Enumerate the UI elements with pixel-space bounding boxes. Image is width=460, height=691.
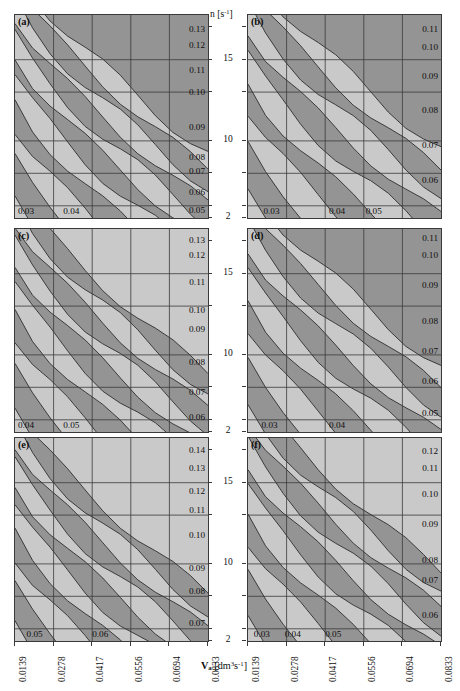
y-axis-label: 15 <box>213 53 243 63</box>
y-axis-tick <box>208 91 212 92</box>
y-axis-tick <box>208 59 212 60</box>
contour-label: 0.05 <box>366 206 382 216</box>
y-axis-tick <box>208 514 212 515</box>
x-axis-title-variable: Va <box>201 660 212 671</box>
contour-label: 0.05 <box>422 408 438 418</box>
panel-tag-e: (e) <box>18 439 29 450</box>
contour-bands-f <box>248 438 441 641</box>
panel-tag-f: (f) <box>251 439 261 450</box>
x-axis-tick <box>91 642 92 646</box>
contour-label: 0.13 <box>189 235 205 245</box>
contour-label: 0.08 <box>189 152 205 162</box>
y-axis-tick <box>208 595 212 596</box>
panel-tag-a: (a) <box>18 16 30 27</box>
contour-label: 0.05 <box>63 420 79 430</box>
x-axis-tick <box>53 642 54 646</box>
contour-label: 0.10 <box>422 42 438 52</box>
contour-label: 0.04 <box>285 629 301 639</box>
contour-bands-b <box>248 15 441 218</box>
y-axis-tick <box>242 91 246 92</box>
y-axis-tick <box>208 305 212 306</box>
x-axis-tick <box>324 642 325 646</box>
x-axis-tick <box>401 642 402 646</box>
contour-label: 0.11 <box>422 233 438 243</box>
contour-label: 0.07 <box>189 387 205 397</box>
contour-label: 0.03 <box>254 629 270 639</box>
x-axis-title-unit: [dm3s-1] <box>214 660 247 671</box>
contour-bands-a <box>15 15 208 218</box>
contour-label: 0.06 <box>422 610 438 620</box>
x-axis-tick <box>286 642 287 646</box>
contour-label: 0.08 <box>422 316 438 326</box>
contour-label: 0.10 <box>422 250 438 260</box>
y-axis-tick <box>242 205 246 206</box>
contour-label: 0.07 <box>189 618 205 628</box>
contour-label: 0.05 <box>189 205 205 215</box>
contour-label: 0.13 <box>189 463 205 473</box>
y-axis-tick <box>242 240 246 241</box>
y-axis-label: 10 <box>213 134 243 144</box>
contour-label: 0.11 <box>422 24 438 34</box>
y-axis-tick <box>242 26 246 27</box>
y-axis-tick <box>208 140 212 141</box>
x-axis-tick <box>247 642 248 646</box>
contour-label: 0.07 <box>422 575 438 585</box>
contour-label: 0.07 <box>422 346 438 356</box>
y-axis-tick <box>208 172 212 173</box>
y-axis-tick <box>208 482 212 483</box>
y-axis-tick <box>208 273 212 274</box>
y-axis-label: 2 <box>213 425 243 435</box>
y-axis-tick <box>208 386 212 387</box>
contour-label: 0.09 <box>189 122 205 132</box>
contour-label: 0.09 <box>422 519 438 529</box>
y-axis-tick <box>242 628 246 629</box>
y-axis-tick <box>242 449 246 450</box>
contour-label: 0.09 <box>422 71 438 81</box>
x-axis-label: 0.0417 <box>95 656 105 682</box>
contour-label: 0.09 <box>189 563 205 573</box>
y-axis-tick <box>208 640 212 641</box>
contour-label: 0.11 <box>189 65 205 75</box>
x-axis-label: 0.0278 <box>290 656 300 682</box>
panel-tag-c: (c) <box>18 230 29 241</box>
contour-label: 0.04 <box>329 420 345 430</box>
y-axis-tick <box>208 217 212 218</box>
contour-figure: (a)0.130.120.110.100.090.080.070.060.050… <box>0 0 460 691</box>
contour-label: 0.11 <box>189 505 205 515</box>
x-axis-label: 0.0556 <box>367 656 377 682</box>
y-axis-tick <box>208 419 212 420</box>
contour-label: 0.07 <box>422 140 438 150</box>
contour-label: 0.04 <box>63 206 79 216</box>
contour-label: 0.03 <box>18 206 34 216</box>
contour-panel-f: (f)0.120.110.100.090.080.070.060.030.040… <box>247 437 442 642</box>
y-axis-title: n [s-1] <box>210 8 233 19</box>
x-axis-tick <box>363 642 364 646</box>
contour-label: 0.08 <box>422 105 438 115</box>
y-axis-tick <box>208 449 212 450</box>
contour-label: 0.04 <box>18 420 34 430</box>
contour-panel-e: (e)0.140.130.120.110.100.090.080.070.050… <box>14 437 209 642</box>
y-axis-tick <box>208 26 212 27</box>
contour-label: 0.08 <box>422 555 438 565</box>
y-axis-tick <box>208 563 212 564</box>
x-axis-label: 0.0278 <box>57 656 67 682</box>
x-axis-label: 0.0833 <box>444 656 454 682</box>
contour-label: 0.12 <box>422 446 438 456</box>
contour-bands-e <box>15 438 208 641</box>
x-axis-tick <box>168 642 169 646</box>
x-axis-label: 0.0139 <box>251 656 261 682</box>
y-axis-tick <box>242 595 246 596</box>
x-axis-tick <box>14 642 15 646</box>
contour-label: 0.12 <box>189 40 205 50</box>
contour-label: 0.06 <box>189 412 205 422</box>
contour-label: 0.10 <box>189 530 205 540</box>
y-axis-label: 15 <box>213 476 243 486</box>
x-axis-title: Va [dm3s-1] <box>201 660 247 671</box>
contour-label: 0.06 <box>422 175 438 185</box>
contour-label: 0.04 <box>329 206 345 216</box>
panel-tag-d: (d) <box>251 230 263 241</box>
contour-label: 0.05 <box>325 629 341 639</box>
contour-panel-c: (c)0.130.120.110.100.090.080.070.060.040… <box>14 228 209 433</box>
x-axis-tick <box>130 642 131 646</box>
contour-label: 0.12 <box>189 250 205 260</box>
